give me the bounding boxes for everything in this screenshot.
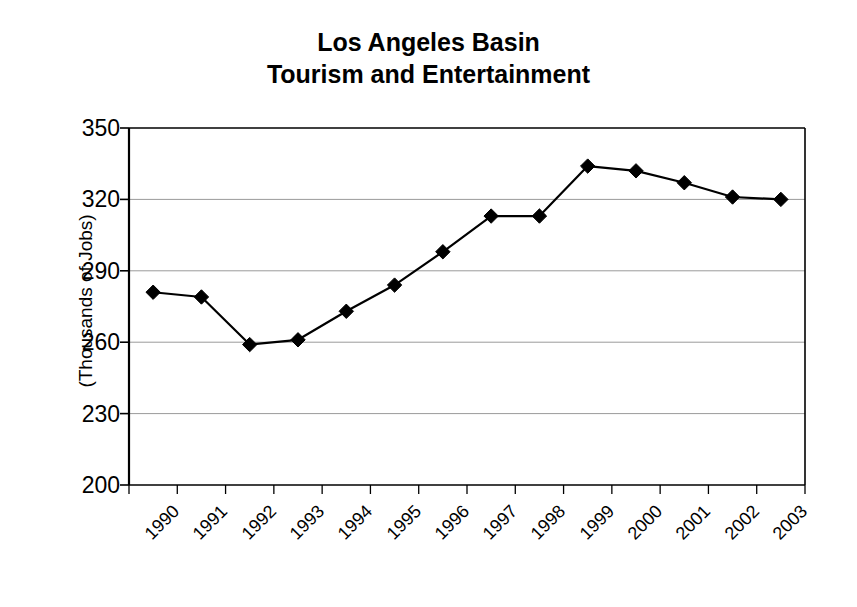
data-point [677,176,691,190]
data-point [339,304,353,318]
grid-lines [129,199,805,413]
data-point [725,190,739,204]
data-point [774,192,788,206]
data-series-line [153,166,781,344]
axis-lines [129,128,805,485]
y-axis-tick-marks [120,128,129,485]
data-point [146,285,160,299]
data-point [291,333,305,347]
x-axis-tick-marks [129,485,805,494]
data-point [387,278,401,292]
data-point [629,164,643,178]
line-chart-plot [0,0,857,607]
data-series-markers [146,159,788,352]
chart-figure: Los Angeles Basin Tourism and Entertainm… [0,0,857,607]
